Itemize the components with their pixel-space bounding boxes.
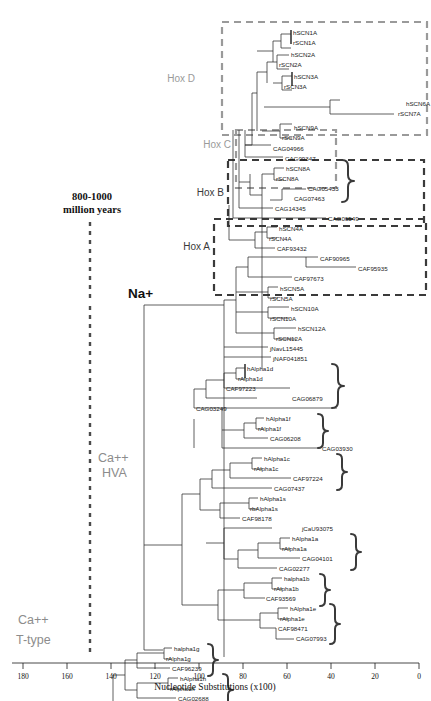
- tip-label: CAG03930: [322, 445, 353, 452]
- axis-tick-label: 0: [417, 672, 421, 681]
- group-label-hox-a: Hox A: [183, 241, 210, 252]
- tree-svg: Hox D Hox C Hox B Hox A: [0, 0, 431, 701]
- clade-label-ca-hva-line2: HVA: [102, 466, 127, 480]
- tip-label: CAF97673: [294, 275, 324, 282]
- tip-label: rAlpha1d: [238, 375, 263, 382]
- tip-label: rSCN12A: [276, 335, 303, 342]
- tip-label: rAlpha1b: [274, 585, 299, 592]
- time-annotation-line1: 800-1000: [72, 191, 112, 202]
- tip-label: CAF97224: [293, 475, 323, 482]
- tip-label: CAG09347: [285, 155, 316, 162]
- tip-label: CAG07993: [296, 635, 327, 642]
- group-label-hox-c: Hox C: [203, 139, 231, 150]
- tip-label: CAF90965: [320, 255, 350, 262]
- tip-label: CAG07463: [294, 195, 325, 202]
- axis-tick-label: 40: [327, 672, 335, 681]
- axis-tick-label: 100: [193, 672, 205, 681]
- axis-tick-group: 180160140120100806040200: [17, 663, 421, 681]
- tip-label: hAlpha1s: [260, 495, 286, 502]
- tip-label: rSCN10A: [270, 315, 297, 322]
- tip-label: CAG06879: [292, 395, 323, 402]
- tip-label: CAG03249: [196, 405, 227, 412]
- tip-label: rSCN7A: [398, 110, 422, 117]
- tip-label: CAF93569: [266, 595, 296, 602]
- tip-label: halpha1b: [284, 575, 310, 582]
- tip-label: rAlpha1e: [280, 615, 305, 622]
- tip-label: hSCN4A: [279, 225, 304, 232]
- tip-label: rSCN2A: [279, 61, 303, 68]
- clade-label-ca-ttype-line1: Ca++: [18, 613, 49, 627]
- tip-label: CAG04101: [302, 555, 333, 562]
- axis-tick-label: 20: [371, 672, 379, 681]
- tip-label: jNavL15445: [269, 345, 304, 352]
- tip-label: CAF98178: [242, 515, 272, 522]
- tip-label: CAG14345: [275, 205, 306, 212]
- tip-label: hSCN3A: [294, 73, 319, 80]
- axis-title: Nucleotide Substitutions (x100): [154, 682, 275, 693]
- tip-label: rSCN5A: [270, 295, 294, 302]
- axis-tick-label: 160: [61, 672, 73, 681]
- tip-label: CAF97223: [226, 385, 256, 392]
- tip-label: rAlpha1f: [258, 425, 281, 432]
- tip-label: hSCN6A: [406, 100, 431, 107]
- tip-label: hSCN9A: [294, 124, 319, 131]
- tip-label: hAlpha1c: [264, 455, 290, 462]
- tip-label: hAlpha1d: [247, 365, 274, 372]
- tip-label: hSCN1A: [293, 29, 318, 36]
- tip-label: hSCN12A: [298, 325, 326, 332]
- axis-tick-label: 80: [239, 672, 247, 681]
- tip-label: CAG05433: [308, 185, 339, 192]
- tip-label: hSCN8A: [286, 165, 311, 172]
- axis-tick-label: 140: [105, 672, 117, 681]
- clade-label-ca-hva-line1: Ca++: [98, 451, 129, 465]
- clade-label-na: Na+: [128, 286, 153, 301]
- tip-label: jNAF041851: [272, 355, 308, 362]
- axis-tick-label: 60: [283, 672, 291, 681]
- time-annotation-line2: million years: [63, 204, 121, 215]
- tip-label: hSCN5A: [280, 285, 305, 292]
- tip-label: jCaU93075: [301, 525, 334, 532]
- phylogenetic-tree-figure: Hox D Hox C Hox B Hox A: [0, 0, 431, 701]
- tip-label: CAG04966: [273, 145, 304, 152]
- tip-label: rbAlpha1s: [250, 505, 278, 512]
- group-label-hox-b: Hox B: [197, 187, 225, 198]
- group-label-hox-d: Hox D: [167, 73, 195, 84]
- tip-label: rSCN4A: [269, 235, 293, 242]
- hox-d-box: [222, 22, 427, 135]
- tip-label: CAF95935: [358, 265, 388, 272]
- tip-label: CAG07437: [274, 485, 305, 492]
- tip-label: CAG06549: [328, 215, 359, 222]
- tip-label: rAlpha1g: [166, 655, 191, 662]
- tip-label: rSCN8A: [276, 175, 300, 182]
- tip-label: hSCN10A: [291, 305, 319, 312]
- tip-label-group: hSCN1ArSCN1AhSCN2ArSCN2AhSCN3ArSCN3AhSCN…: [137, 29, 431, 701]
- tip-label: rSCN1A: [293, 39, 317, 46]
- tip-label: hAlpha1a: [292, 535, 319, 542]
- tip-label: rSCN3A: [284, 83, 308, 90]
- clade-label-ca-ttype-line2: T-type: [16, 633, 51, 647]
- tip-label: halpha1g: [174, 645, 200, 652]
- tip-label: hAlpha1e: [290, 605, 317, 612]
- tip-label: hSCN2A: [291, 51, 316, 58]
- tip-label: rAlpha1c: [254, 465, 278, 472]
- tip-label: CAG02688: [178, 695, 209, 701]
- tip-label: CAG06208: [270, 435, 301, 442]
- tip-label: hAlpha1f: [266, 415, 291, 422]
- tip-label: CAF93432: [277, 245, 307, 252]
- hox-b-box: [228, 160, 424, 226]
- tip-label: CAF96239: [172, 665, 202, 672]
- tip-label: CAG02277: [279, 565, 310, 572]
- axis-tick-label: 180: [17, 672, 29, 681]
- tip-label: CAF98471: [278, 625, 308, 632]
- tip-label: rAlpha1a: [282, 545, 307, 552]
- axis-tick-label: 120: [149, 672, 161, 681]
- tip-label: rSCN9A: [282, 134, 306, 141]
